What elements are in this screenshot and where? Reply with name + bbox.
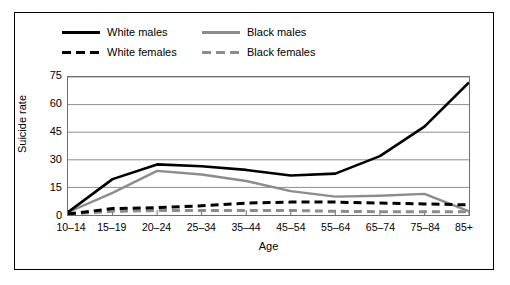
chart-figure: White males Black males White females Bl… <box>0 0 510 285</box>
y-axis-title: Suicide rate <box>16 69 28 179</box>
x-axis-tick-labels: 10–1415–1920–2425–3435–4445–5455–6465–74… <box>67 221 470 237</box>
legend-swatch-white-males-icon <box>62 31 100 34</box>
legend-swatch-black-females-icon <box>202 51 240 54</box>
plot-svg <box>68 77 469 215</box>
x-tick-label: 25–34 <box>187 221 216 233</box>
chart-legend: White males Black males White females Bl… <box>62 24 332 64</box>
y-tick-label: 15 <box>36 182 62 193</box>
series-line-black-females <box>68 210 469 214</box>
plot-area <box>67 76 470 216</box>
legend-item-white-males: White males <box>62 24 168 40</box>
y-tick-label: 60 <box>36 98 62 109</box>
y-tick-label: 45 <box>36 126 62 137</box>
y-tick-label: 30 <box>36 154 62 165</box>
legend-label-black-females: Black females <box>247 47 315 58</box>
legend-label-white-females: White females <box>107 47 177 58</box>
legend-swatch-black-males-icon <box>202 31 240 34</box>
legend-swatch-white-females-icon <box>62 51 100 54</box>
series-line-white-males <box>68 83 469 213</box>
legend-item-white-females: White females <box>62 44 177 60</box>
x-tick-label: 65–74 <box>366 221 395 233</box>
x-tick-label: 55–64 <box>321 221 350 233</box>
x-tick-label: 10–14 <box>56 221 85 233</box>
y-axis-tick-labels: 01530456075 <box>36 0 62 285</box>
legend-label-black-males: Black males <box>247 27 306 38</box>
x-tick-label: 85+ <box>455 221 473 233</box>
legend-label-white-males: White males <box>107 27 168 38</box>
x-tick-label: 35–44 <box>232 221 261 233</box>
series-line-black-males <box>68 171 469 212</box>
x-axis-title: Age <box>67 240 470 252</box>
x-tick-label: 15–19 <box>97 221 126 233</box>
x-tick-label: 45–54 <box>276 221 305 233</box>
legend-item-black-females: Black females <box>202 44 315 60</box>
y-tick-label: 0 <box>36 210 62 221</box>
x-tick-label: 20–24 <box>142 221 171 233</box>
x-tick-label: 75–84 <box>411 221 440 233</box>
y-tick-label: 75 <box>36 70 62 81</box>
legend-item-black-males: Black males <box>202 24 306 40</box>
